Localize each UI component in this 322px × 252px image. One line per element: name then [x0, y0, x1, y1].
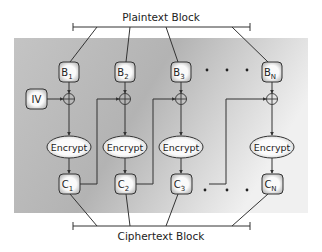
- plaintext-block-bn: BN: [262, 62, 282, 82]
- ciphertext-block-label: Ciphertext Block: [118, 230, 206, 242]
- xor-icon: [267, 94, 278, 105]
- cbc-mode-diagram: Plaintext Block Ciphertext Block: [0, 0, 322, 252]
- plaintext-block-b1: B1: [59, 62, 79, 82]
- svg-text:Encrypt: Encrypt: [107, 142, 144, 153]
- plaintext-block-b3: B3: [171, 62, 191, 82]
- ciphertext-block-c1: C1: [59, 174, 80, 194]
- iv-label: IV: [32, 94, 42, 105]
- encrypt-node-2: Encrypt: [103, 136, 147, 158]
- xor-icon: [64, 94, 75, 105]
- encrypt-node-1: Encrypt: [47, 136, 91, 158]
- encrypt-node-n: Encrypt: [250, 136, 294, 158]
- ciphertext-block-c3: C3: [171, 174, 192, 194]
- svg-text:Encrypt: Encrypt: [163, 142, 200, 153]
- svg-text:Encrypt: Encrypt: [51, 142, 88, 153]
- plaintext-block-label: Plaintext Block: [122, 11, 201, 23]
- svg-text:Encrypt: Encrypt: [254, 142, 291, 153]
- ciphertext-block-c2: C2: [115, 174, 136, 194]
- ciphertext-block-cn: CN: [262, 174, 283, 194]
- xor-icon: [120, 94, 131, 105]
- iv-box: IV: [26, 89, 47, 109]
- encrypt-node-3: Encrypt: [159, 136, 203, 158]
- plaintext-block-b2: B2: [115, 62, 135, 82]
- xor-icon: [176, 94, 187, 105]
